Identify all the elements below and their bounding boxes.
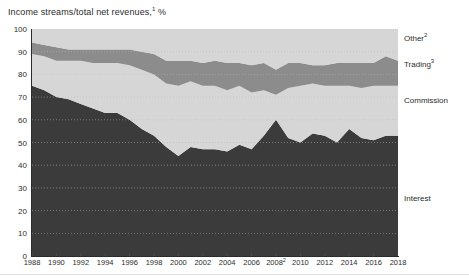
legend-footnote-marker: 3 [431, 58, 434, 64]
x-axis-tick-label: 2006 [243, 258, 260, 267]
legend-label-trading: Trading3 [404, 60, 434, 69]
chart-figure: Income streams/total net revenues,1 % 01… [0, 0, 469, 280]
y-axis-tick-label: 10 [18, 229, 27, 238]
y-axis-tick-label: 80 [18, 70, 27, 79]
chart-title-footnote-marker: 1 [152, 6, 155, 12]
chart-title: Income streams/total net revenues,1 % [8, 7, 166, 17]
x-tick-footnote-marker: 2 [283, 257, 286, 263]
y-axis-tick-label: 90 [18, 47, 27, 56]
y-axis-tick-label: 40 [18, 161, 27, 170]
x-axis-tick-label: 2002 [194, 258, 211, 267]
x-axis-line [31, 256, 399, 257]
x-axis-tick-label: 2004 [219, 258, 236, 267]
footer-divider [0, 274, 469, 275]
chart-title-unit: % [158, 7, 166, 17]
x-axis-tick-label: 1996 [121, 258, 138, 267]
y-axis-tick-label: 20 [18, 206, 27, 215]
x-axis-tick-label: 1988 [24, 258, 41, 267]
x-axis-tick-label: 20082 [266, 258, 286, 267]
y-axis-tick-label: 100 [14, 25, 27, 34]
y-axis-tick-label: 30 [18, 183, 27, 192]
x-axis-tick-label: 2018 [390, 258, 407, 267]
x-axis-tick-label: 2012 [316, 258, 333, 267]
x-axis-tick-label: 2016 [365, 258, 382, 267]
plot-area [32, 29, 398, 256]
x-axis-tick-label: 1990 [48, 258, 65, 267]
x-axis-tick-label: 1998 [146, 258, 163, 267]
y-axis-line [31, 29, 32, 257]
legend-label-interest: Interest [404, 194, 431, 203]
x-axis-tick-label: 2010 [292, 258, 309, 267]
x-axis-tick-label: 1994 [97, 258, 114, 267]
x-axis-tick-label: 2014 [341, 258, 358, 267]
stacked-area-svg [32, 29, 398, 256]
legend-label-other: Other2 [404, 34, 427, 43]
x-axis-labels: 1988199019921994199619982000200220042006… [0, 258, 469, 274]
y-axis-tick-label: 70 [18, 93, 27, 102]
y-axis-tick-label: 60 [18, 115, 27, 124]
legend-footnote-marker: 2 [424, 32, 427, 38]
x-axis-tick-label: 1992 [72, 258, 89, 267]
y-axis-labels: 0102030405060708090100 [0, 0, 30, 280]
x-axis-tick-label: 2000 [170, 258, 187, 267]
legend-label-commission: Commission [404, 96, 448, 105]
y-axis-tick-label: 50 [18, 138, 27, 147]
